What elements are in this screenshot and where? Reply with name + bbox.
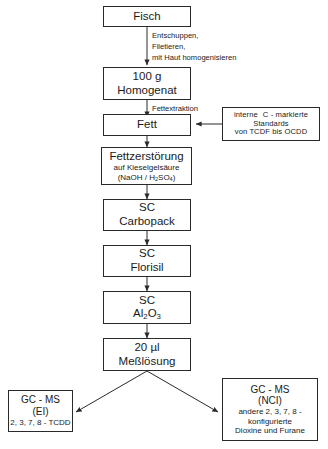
node-sc-al2o3-type: SC (139, 294, 155, 308)
node-internal-standards[interactable]: interneC - markierte Standards von TCDF … (222, 107, 320, 141)
formula-close: ) (173, 173, 176, 182)
al2o3-sub-b: 3 (157, 312, 161, 321)
node-gcms-ei[interactable]: GC - MS (EI) 2, 3, 7, 8 - TCDD (8, 390, 73, 432)
edge-label-preparation-line2: Filetieren, (152, 41, 236, 52)
node-sc-al2o3[interactable]: SC Al2O3 (103, 291, 191, 324)
node-gcms-ei-mode: (EI) (32, 406, 48, 418)
node-fettzerstoerung[interactable]: Fettzerstörung auf Kieselgelsäure (NaOH … (101, 147, 192, 185)
node-sc-carbopack[interactable]: SC Carbopack (103, 199, 191, 231)
node-fett-label: Fett (137, 118, 157, 132)
node-sc-florisil[interactable]: SC Florisil (103, 245, 191, 277)
al2o3-b: O (148, 307, 157, 319)
node-fisch-label: Fisch (133, 10, 160, 24)
node-fettzerstoerung-sub: auf Kieselgelsäure (114, 163, 180, 172)
standards-line3: von TCDF bis OCDD (235, 128, 307, 137)
node-gcms-nci[interactable]: GC - MS (NCI) andere 2, 3, 7, 8 - konfig… (222, 378, 318, 441)
flowchart-canvas: Fisch Entschuppen, Filetieren, mit Haut … (0, 0, 328, 449)
node-sc-florisil-label: Florisil (130, 261, 163, 275)
node-gcms-nci-analyte-line3: Dioxine und Furane (235, 426, 305, 435)
node-messloesung-label: Meßlösung (119, 355, 176, 369)
node-fisch[interactable]: Fisch (103, 6, 191, 27)
edge-label-preparation-line1: Entschuppen, (152, 30, 236, 41)
al2o3-a: Al (133, 307, 143, 319)
node-gcms-ei-analyte: 2, 3, 7, 8 - TCDD (10, 418, 70, 427)
node-gcms-nci-analyte-line2: konfigurierte (248, 417, 292, 426)
node-sc-carbopack-label: Carbopack (119, 215, 175, 229)
standards-line1-b: C - markierte (263, 110, 308, 119)
edge-label-extraction-line1: Fettextraktion (152, 103, 198, 114)
formula-mid: SO (158, 173, 170, 182)
node-fettzerstoerung-formula: (NaOH / H2SO4) (118, 173, 176, 183)
node-homogenat-label: Homogenat (117, 84, 176, 98)
node-gcms-nci-analyte-line1: andere 2, 3, 7, 8 - (238, 407, 301, 416)
node-messloesung-volume: 20 µl (134, 341, 159, 355)
node-sc-florisil-type: SC (139, 247, 155, 261)
formula-open: (NaOH / H (118, 173, 155, 182)
node-sc-carbopack-type: SC (139, 201, 155, 215)
node-gcms-nci-title: GC - MS (251, 384, 290, 396)
edge-label-extraction: Fettextraktion (152, 103, 198, 114)
node-homogenat[interactable]: 100 g Homogenat (103, 67, 191, 100)
node-fett[interactable]: Fett (103, 114, 191, 136)
node-sc-al2o3-formula: Al2O3 (133, 307, 161, 321)
node-gcms-ei-title: GC - MS (21, 394, 60, 406)
node-fettzerstoerung-label: Fettzerstörung (109, 150, 183, 164)
standards-line1-a: interne (234, 110, 258, 119)
node-gcms-nci-mode: (NCI) (258, 395, 282, 407)
node-messloesung[interactable]: 20 µl Meßlösung (103, 338, 191, 371)
edge-label-preparation-line3: mit Haut homogenisieren (152, 52, 236, 63)
node-homogenat-amount: 100 g (133, 70, 162, 84)
edge-label-preparation: Entschuppen, Filetieren, mit Haut homoge… (152, 30, 236, 63)
